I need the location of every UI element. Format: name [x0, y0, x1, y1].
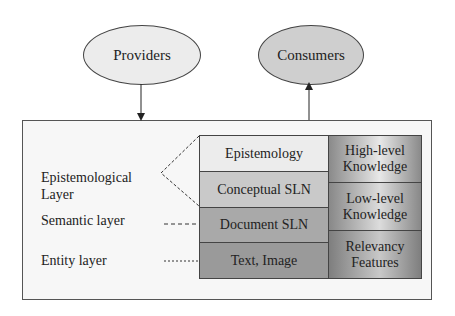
connectors — [0, 0, 455, 316]
epistemological-bracket — [161, 136, 199, 206]
